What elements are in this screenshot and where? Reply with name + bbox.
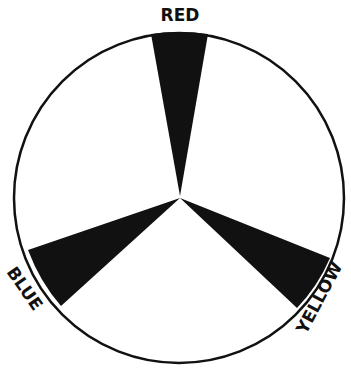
wedge-blue bbox=[28, 198, 180, 306]
label-red: RED bbox=[161, 5, 200, 25]
wedge-yellow bbox=[180, 198, 330, 308]
color-wheel-diagram: RED BLUE YELLOW bbox=[0, 0, 351, 378]
wedge-red bbox=[151, 32, 208, 196]
